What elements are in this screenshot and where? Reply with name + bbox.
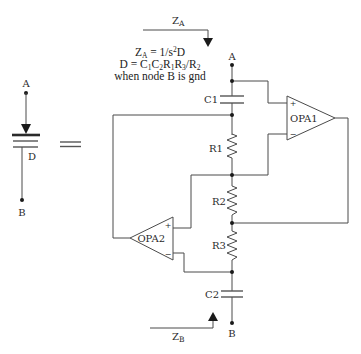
circuit: A C1 R1 R2 R3 C2 [113,51,348,339]
capacitor-c2-label: C2 [205,289,219,300]
opa1-plus-sign: + [290,99,297,108]
resistor-zigzag-icon [227,231,237,260]
circuit-node-a-label: A [227,51,236,62]
node-dot [230,113,234,117]
formula-line-3: when node B is gnd [114,70,206,83]
node-dot [230,270,234,274]
arrow-down-icon [203,38,213,47]
opa2-minus-wire [173,253,232,272]
impedance-b-label: ZB [172,331,185,344]
impedance-a-indicator: ZA [143,15,213,47]
symbol-node-b-label: B [18,207,25,218]
impedance-b-line [150,318,213,328]
opa2-label: OPA2 [137,233,165,244]
fdnr-symbol: A D B [12,78,40,218]
resistor-zigzag-icon [227,186,237,215]
resistor-r1-label: R1 [209,143,223,154]
node-dot [230,79,234,83]
node-a-dot [230,63,234,67]
opa2-minus-sign: − [165,250,172,259]
formula-block: ZA = 1/s2D D = C1C2R1R3/R2 when node B i… [114,45,206,83]
arrow-up-icon [208,312,218,321]
capacitor-c2: C2 [205,289,243,300]
node-dot [230,173,234,177]
equivalence-sign [60,142,81,147]
circuit-node-b-label: B [228,328,235,339]
impedance-a-label: ZA [172,15,185,28]
node-b-dot [230,321,234,325]
circuit-diagram: A D B ZA ZA = 1/s2D D = C1C2R1R3/R2 when… [0,0,361,354]
resistor-r2: R2 [212,186,237,215]
diagram-svg: A D B ZA ZA = 1/s2D D = C1C2R1R3/R2 when… [0,0,361,354]
opa1-label: OPA1 [290,113,318,124]
opa1-plus-wire [232,81,287,103]
capacitor-c1: C1 [204,94,244,105]
resistor-zigzag-icon [227,134,237,158]
resistor-r3-label: R3 [212,240,226,251]
resistor-r1: R1 [209,134,237,158]
resistor-r3: R3 [212,231,237,260]
symbol-arrow-icon [21,124,31,134]
impedance-b-indicator: ZB [150,312,218,344]
opamp-opa1: + − OPA1 [232,81,348,223]
symbol-node-b-dot [20,198,24,202]
symbol-node-a-label: A [21,78,30,89]
opa1-minus-sign: − [290,130,297,139]
opa2-plus-sign: + [165,221,172,230]
symbol-device-label: D [28,151,36,162]
impedance-a-line [143,30,208,40]
capacitor-c1-label: C1 [204,94,218,105]
resistor-r2-label: R2 [212,196,226,207]
opa1-minus-wire [232,134,287,175]
node-dot [230,221,234,225]
